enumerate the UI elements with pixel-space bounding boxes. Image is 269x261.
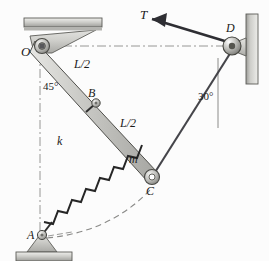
label-point-B: B [88, 86, 95, 101]
label-mass-m: m [129, 152, 138, 167]
pulley-D [223, 37, 241, 55]
label-spring-k: k [57, 134, 62, 149]
mechanics-figure: O B C D A T L/2 L/2 k m 45° 30° [0, 0, 269, 261]
label-point-A: A [27, 228, 34, 243]
ground-support-A [16, 230, 72, 261]
label-angle-30: 30° [198, 90, 213, 102]
label-point-C: C [146, 184, 154, 199]
pivot-O [35, 39, 50, 54]
label-point-O: O [21, 44, 30, 60]
cable-CD [152, 52, 231, 177]
label-length-upper: L/2 [74, 57, 90, 72]
label-angle-45: 45° [43, 80, 58, 92]
label-tension-T: T [140, 7, 147, 23]
tension-arrow [152, 13, 228, 42]
motion-arc [47, 190, 150, 238]
label-length-lower: L/2 [120, 116, 136, 131]
joint-C [145, 170, 160, 185]
label-point-D: D [226, 21, 235, 36]
